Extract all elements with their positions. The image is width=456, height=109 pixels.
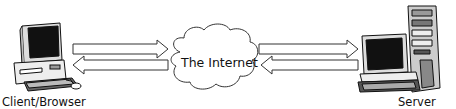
arrow-client-to-internet: [73, 40, 168, 58]
internet-label: The Internet: [181, 55, 258, 70]
arrow-server-to-internet: [261, 56, 358, 74]
server-label: Server: [398, 95, 436, 109]
server-tower-icon: [358, 6, 440, 92]
arrow-internet-to-client: [73, 56, 168, 74]
desktop-computer-icon: [14, 23, 81, 91]
arrow-internet-to-server: [259, 40, 358, 58]
client-browser-label: Client/Browser: [2, 95, 86, 109]
